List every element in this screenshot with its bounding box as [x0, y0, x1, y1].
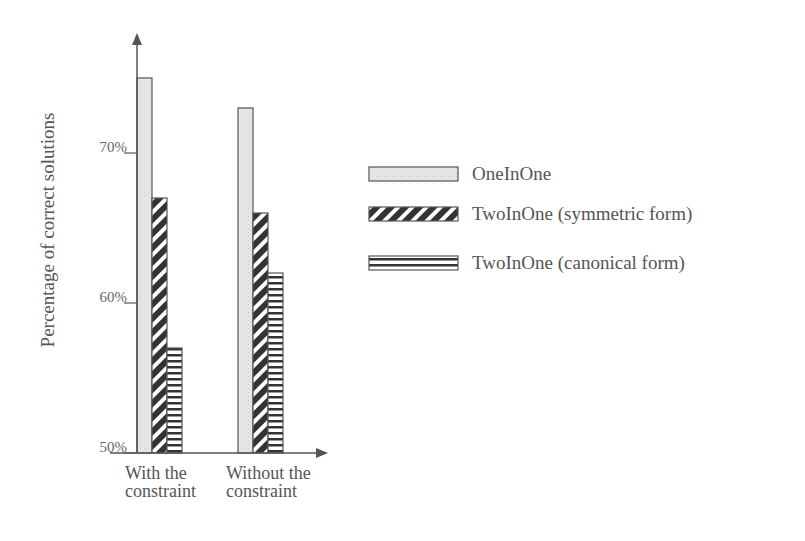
- x-category-label: constraint: [125, 481, 196, 501]
- bar-oneinone-1: [137, 78, 152, 453]
- y-axis-arrow-icon: [132, 33, 142, 45]
- legend: OneInOneTwoInOne (symmetric form)TwoInOn…: [369, 163, 692, 274]
- x-category-label: With the: [125, 463, 187, 483]
- x-category-label: constraint: [226, 481, 297, 501]
- bar-twoinone-canonical-form-2: [268, 273, 283, 453]
- y-tick-label: 50%: [100, 439, 128, 455]
- bar-twoinone-symmetric-form-1: [152, 198, 167, 453]
- bar-twoinone-canonical-form-1: [167, 348, 182, 453]
- bars-group: [137, 78, 283, 453]
- legend-label: OneInOne: [472, 163, 551, 184]
- legend-swatch: [369, 256, 458, 270]
- y-tick-label: 70%: [100, 139, 128, 155]
- legend-label: TwoInOne (canonical form): [472, 252, 685, 274]
- legend-swatch: [369, 207, 458, 221]
- legend-swatch: [369, 167, 458, 181]
- y-ticks: 50%60%70%: [100, 139, 138, 455]
- bar-chart: Percentage of correct solutions 50%60%70…: [0, 0, 805, 541]
- y-tick-label: 60%: [100, 289, 128, 305]
- bar-twoinone-symmetric-form-2: [253, 213, 268, 453]
- legend-label: TwoInOne (symmetric form): [472, 203, 692, 225]
- y-axis-label: Percentage of correct solutions: [37, 113, 58, 348]
- bar-oneinone-2: [238, 108, 253, 453]
- x-category-label: Without the: [226, 463, 311, 483]
- x-axis-arrow-icon: [316, 448, 328, 458]
- x-category-labels: With theconstraintWithout theconstraint: [125, 463, 311, 501]
